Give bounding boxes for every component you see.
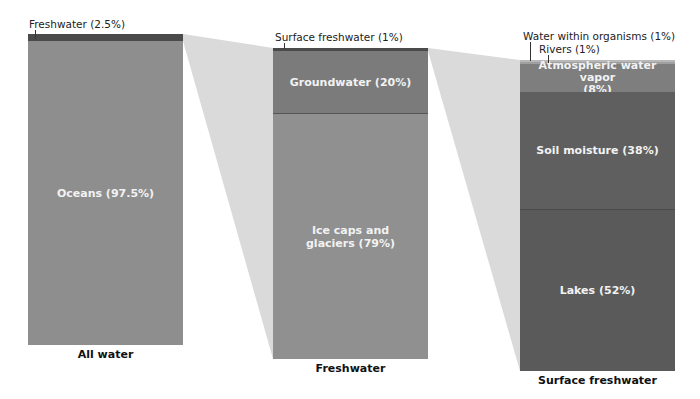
caption-freshwater: Freshwater (273, 362, 428, 375)
ice-label-line2: glaciers (79%) (306, 237, 395, 250)
bar-freshwater: Groundwater (20%) Ice caps and glaciers … (273, 48, 428, 359)
segment-atmospheric-water-vapor: Atmospheric water vapor (8%) (520, 64, 675, 92)
ice-label-line1: Ice caps and (312, 224, 389, 237)
organisms-callout-line (530, 42, 531, 61)
segment-freshwater (28, 34, 183, 41)
caption-all-water: All water (28, 348, 183, 361)
bar-all-water: Oceans (97.5%) (28, 34, 183, 345)
oceans-label: Oceans (97.5%) (57, 187, 154, 200)
wedge-all-to-fresh (183, 34, 273, 359)
organisms-callout: Water within organisms (1%) (523, 30, 675, 42)
soil-label: Soil moisture (38%) (536, 144, 658, 157)
surface-freshwater-callout: Surface freshwater (1%) (275, 31, 403, 43)
segment-soil-moisture: Soil moisture (38%) (520, 92, 675, 210)
freshwater-callout: Freshwater (2.5%) (29, 18, 125, 30)
rivers-callout: Rivers (1%) (539, 43, 600, 55)
caption-surface-freshwater: Surface freshwater (520, 374, 675, 387)
wedge-fresh-to-surface (428, 48, 520, 371)
bar-surface-freshwater: Atmospheric water vapor (8%) Soil moistu… (520, 60, 675, 371)
segment-lakes: Lakes (52%) (520, 210, 675, 371)
groundwater-label: Groundwater (20%) (290, 76, 412, 89)
surface-freshwater-callout-line (284, 43, 285, 49)
freshwater-callout-line (35, 30, 36, 39)
segment-groundwater: Groundwater (20%) (273, 51, 428, 114)
lakes-label: Lakes (52%) (560, 284, 636, 297)
segment-ice-caps: Ice caps and glaciers (79%) (273, 114, 428, 359)
rivers-callout-line (548, 55, 549, 63)
segment-oceans: Oceans (97.5%) (28, 41, 183, 345)
atmo-label-line1: Atmospheric water vapor (520, 60, 675, 84)
